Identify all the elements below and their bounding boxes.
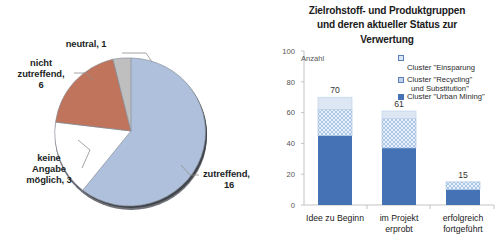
legend-item-urban-mining[interactable]: Cluster "Urban Mining" [398,92,485,102]
pie-label-neutral-text: neutral, 1 [66,38,107,49]
bar-2-segment-einsparung [382,111,416,119]
y-axis-unit-label: Anzahl [301,54,324,63]
x-axis-category-2: im Projekt erprobt [368,213,430,236]
bar-3-segment-recycling [446,182,480,190]
pie-label-nicht-zutreffend-line1: nicht [6,57,76,68]
pie-chart-graphic [0,0,272,248]
legend-swatch-recycling-icon [398,77,404,83]
legend-swatch-einsparung-icon [398,55,404,61]
x-axis-category-1: Idee zu Beginn [304,213,366,224]
legend-label-einsparung-line1: Cluster "Einsparung [407,63,475,72]
pie-label-zutreffend-line1: zutreffend, [203,168,273,179]
y-axis-label-0: 0 [277,201,295,210]
bar-2-segment-urban-mining [382,148,416,205]
bar-3-total-label: 15 [446,170,480,180]
bar-chart-panel: Zielrohstoff- und Produktgruppen und der… [272,0,499,248]
pie-label-neutral: neutral, 1 [48,38,124,49]
legend-label-urban-mining: Cluster "Urban Mining" [407,92,485,102]
pie-label-nicht-zutreffend: nicht zutreffend, 6 [6,57,76,90]
bar-2-segment-recycling [382,119,416,148]
y-axis-label-80: 80 [277,78,295,87]
y-axis-label-40: 40 [277,139,295,148]
x-axis-category-2-line1: im Projekt [368,213,430,224]
x-axis-category-3-line1: erfolgreich [432,213,494,224]
pie-label-zutreffend-line2: 16 [203,179,255,190]
legend-label-einsparung: Cluster "Einsparung und Substitution" [407,53,475,95]
pie-label-zutreffend: zutreffend, 16 [203,168,273,190]
bar-chart-graphic [272,0,499,248]
bar-1-segment-einsparung [318,97,352,109]
x-axis-category-2-line2: erprobt [368,224,430,235]
y-axis-label-100: 100 [277,47,295,56]
pie-label-keine-angabe: keine Angabe möglich, 3 [14,152,84,185]
pie-label-keine-angabe-line2: Angabe [14,163,84,174]
x-axis-category-3-line2: fortgeführt [432,224,494,235]
legend-label-recycling: Cluster "Recycling" [407,75,472,85]
bar-1-total-label: 70 [318,85,352,95]
x-axis-category-1-line1: Idee zu Beginn [304,213,366,224]
bar-1-segment-recycling [318,110,352,136]
y-axis-label-60: 60 [277,108,295,117]
bar-1-segment-urban-mining [318,136,352,205]
y-axis-label-20: 20 [277,170,295,179]
legend-item-recycling[interactable]: Cluster "Recycling" [398,75,472,85]
pie-label-keine-angabe-line1: keine [14,152,84,163]
pie-label-keine-angabe-line3: möglich, 3 [14,174,84,185]
bar-3-segment-urban-mining [446,190,480,205]
legend-swatch-urban-mining-icon [398,94,404,100]
figure-canvas: neutral, 1 nicht zutreffend, 6 keine Ang… [0,0,499,248]
legend-item-einsparung[interactable]: Cluster "Einsparung und Substitution" [398,53,475,95]
pie-chart-panel: neutral, 1 nicht zutreffend, 6 keine Ang… [0,0,272,248]
pie-label-nicht-zutreffend-line2: zutreffend, [6,68,76,79]
pie-label-nicht-zutreffend-line3: 6 [6,79,76,90]
x-axis-category-3: erfolgreich fortgeführt [432,213,494,236]
